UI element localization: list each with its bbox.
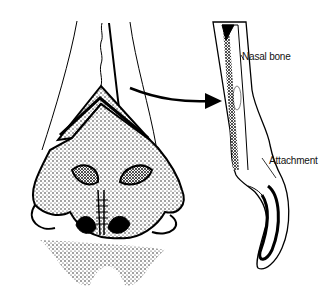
attachment-label: Attachment [269,155,318,166]
nasal-bone-label: Nasal bone [242,51,291,62]
nose-illustration [32,21,184,286]
diagram-canvas [0,0,335,302]
